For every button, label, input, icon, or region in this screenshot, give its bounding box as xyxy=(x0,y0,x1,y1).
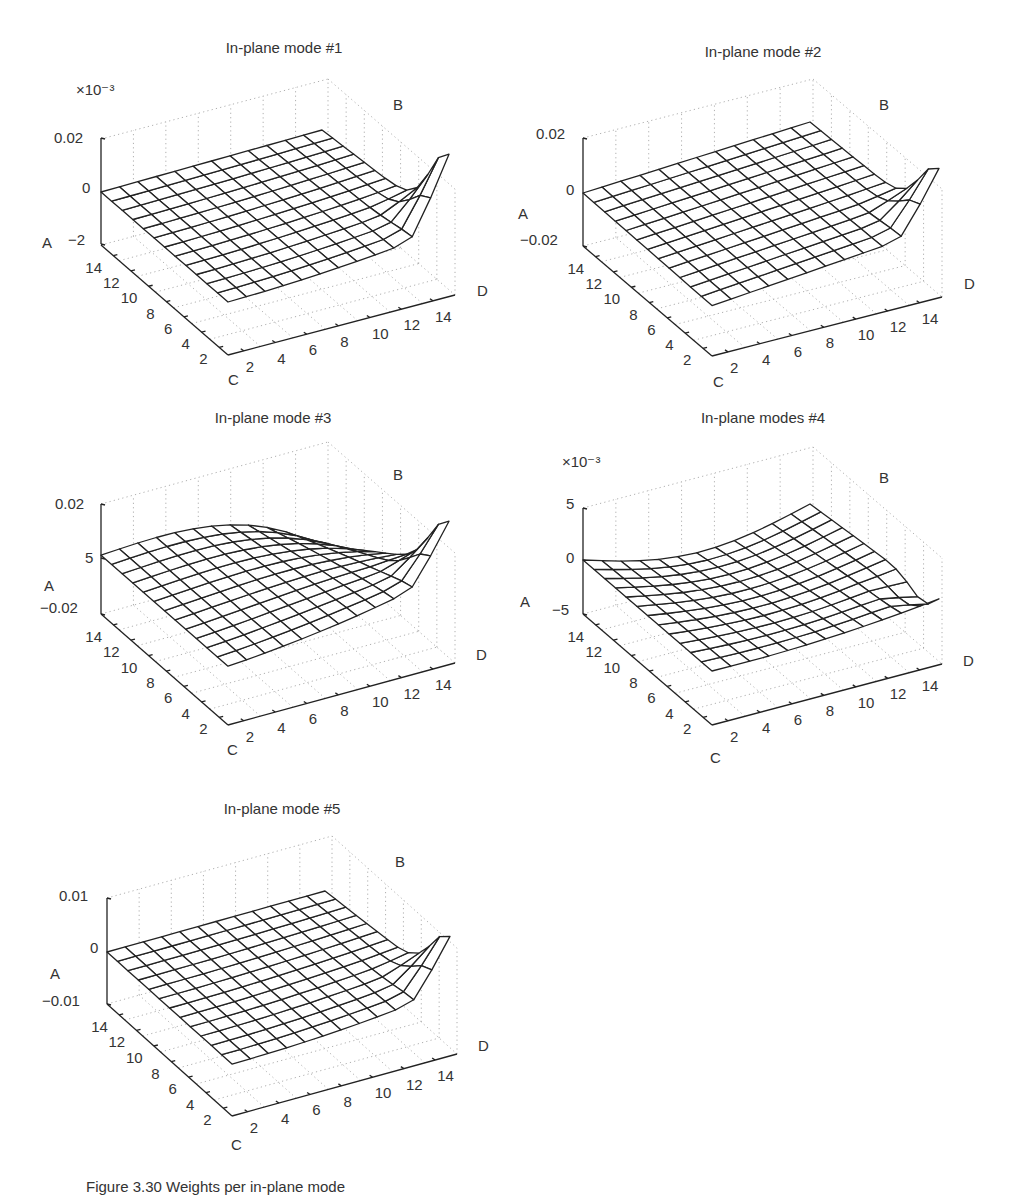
z-tick: −0.02 xyxy=(40,600,78,615)
x-tick: 14 xyxy=(435,677,452,692)
z-axis-label: A xyxy=(518,206,528,221)
y-tick: 12 xyxy=(585,644,602,659)
z-multiplier: ×10⁻³ xyxy=(76,82,114,97)
x-tick: 10 xyxy=(375,1085,392,1100)
x-axis-label: D xyxy=(476,647,487,662)
x-tick: 8 xyxy=(826,335,834,350)
z-tick: 0 xyxy=(566,550,574,565)
x-tick: 6 xyxy=(794,712,802,727)
x-tick: 2 xyxy=(246,729,254,744)
x-tick: 2 xyxy=(250,1120,258,1135)
y-tick: 12 xyxy=(109,1034,126,1049)
y-tick: 8 xyxy=(629,307,637,322)
y-tick: 6 xyxy=(647,690,655,705)
x-tick: 8 xyxy=(340,703,348,718)
x-tick: 14 xyxy=(435,309,452,324)
x-tick: 4 xyxy=(277,351,285,366)
y-tick: 4 xyxy=(182,336,190,351)
y-tick: 8 xyxy=(146,675,154,690)
y-tick: 14 xyxy=(91,1019,108,1034)
z-tick: 0 xyxy=(566,182,574,197)
plot-title: In-plane mode #1 xyxy=(226,39,343,56)
surface-plot-mode-2: In-plane mode #2 0.02 0 −0.02 A B D C 22… xyxy=(500,0,1017,400)
x-tick: 6 xyxy=(309,711,317,726)
plot-title: In-plane mode #3 xyxy=(215,409,332,426)
corner-label: B xyxy=(393,97,403,112)
y-tick: 10 xyxy=(121,660,138,675)
z-axis-label: A xyxy=(44,578,54,593)
y-tick: 2 xyxy=(203,1112,211,1127)
plot-title: In-plane modes #4 xyxy=(701,409,825,426)
y-tick: 10 xyxy=(121,290,138,305)
surface-plot-mode-4: In-plane modes #4 ×10⁻³ 5 0 −5 A B D C 2… xyxy=(500,400,1017,800)
x-tick: 10 xyxy=(372,694,389,709)
y-tick: 6 xyxy=(164,321,172,336)
x-tick: 2 xyxy=(730,729,738,744)
x-tick: 14 xyxy=(922,311,939,326)
x-tick: 12 xyxy=(406,1077,423,1092)
z-tick: 0.01 xyxy=(59,888,88,903)
x-tick: 4 xyxy=(762,720,770,735)
y-tick: 8 xyxy=(151,1066,159,1081)
y-axis-label: C xyxy=(710,750,721,765)
y-tick: 4 xyxy=(665,337,673,352)
y-tick: 8 xyxy=(629,675,637,690)
z-tick: 5 xyxy=(85,550,93,565)
x-tick: 14 xyxy=(437,1068,454,1083)
x-tick: 8 xyxy=(343,1094,351,1109)
corner-label: B xyxy=(879,97,889,112)
x-tick: 6 xyxy=(309,342,317,357)
y-tick: 10 xyxy=(603,291,620,306)
z-tick: 0.02 xyxy=(54,130,83,145)
y-axis-label: C xyxy=(228,372,239,387)
surface-plot-mode-1: In-plane mode #1 ×10⁻³ 0.02 0 −2 A B D C… xyxy=(0,0,500,390)
y-tick: 14 xyxy=(568,261,585,276)
z-tick: −0.01 xyxy=(42,993,80,1008)
x-tick: 4 xyxy=(277,720,285,735)
x-tick: 8 xyxy=(826,703,834,718)
y-tick: 2 xyxy=(199,721,207,736)
x-tick: 2 xyxy=(730,360,738,375)
x-tick: 4 xyxy=(281,1111,289,1126)
z-tick: 0 xyxy=(82,180,90,195)
figure-caption: Figure 3.30 Weights per in-plane mode xyxy=(86,1178,345,1195)
z-tick: −0.02 xyxy=(520,232,558,247)
x-axis-label: D xyxy=(963,653,974,668)
z-axis-label: A xyxy=(50,966,60,981)
x-tick: 12 xyxy=(890,686,907,701)
y-tick: 6 xyxy=(164,690,172,705)
y-tick: 4 xyxy=(182,706,190,721)
y-tick: 12 xyxy=(103,644,120,659)
x-tick: 6 xyxy=(794,344,802,359)
y-tick: 14 xyxy=(568,629,585,644)
x-tick: 2 xyxy=(246,359,254,374)
z-tick: 0 xyxy=(90,940,98,955)
y-tick: 4 xyxy=(665,706,673,721)
x-tick: 14 xyxy=(922,678,939,693)
corner-label: B xyxy=(879,470,889,485)
x-axis-label: D xyxy=(477,283,488,298)
plot-title: In-plane mode #2 xyxy=(705,43,822,60)
z-multiplier: ×10⁻³ xyxy=(562,454,600,469)
z-axis-label: A xyxy=(42,235,52,250)
y-tick: 10 xyxy=(603,660,620,675)
y-tick: 12 xyxy=(103,275,120,290)
x-tick: 10 xyxy=(858,695,875,710)
y-tick: 10 xyxy=(126,1050,143,1065)
x-axis-label: D xyxy=(964,276,975,291)
y-axis-label: C xyxy=(227,742,238,757)
surface-plot-canvas xyxy=(0,0,500,390)
y-tick: 14 xyxy=(85,260,102,275)
y-tick: 8 xyxy=(146,306,154,321)
surface-plot-mode-3: In-plane mode #3 0.02 5 −0.02 A B D C 22… xyxy=(0,400,500,790)
y-tick: 14 xyxy=(85,629,102,644)
corner-label: B xyxy=(393,467,403,482)
y-tick: 2 xyxy=(683,352,691,367)
x-tick: 8 xyxy=(340,334,348,349)
x-tick: 12 xyxy=(403,686,420,701)
y-axis-label: C xyxy=(231,1137,242,1152)
surface-plot-mode-5: In-plane mode #5 0.01 0 −0.01 A B D C 22… xyxy=(0,790,500,1180)
x-tick: 10 xyxy=(372,326,389,341)
z-axis-label: A xyxy=(520,594,530,609)
z-tick: 5 xyxy=(566,496,574,511)
